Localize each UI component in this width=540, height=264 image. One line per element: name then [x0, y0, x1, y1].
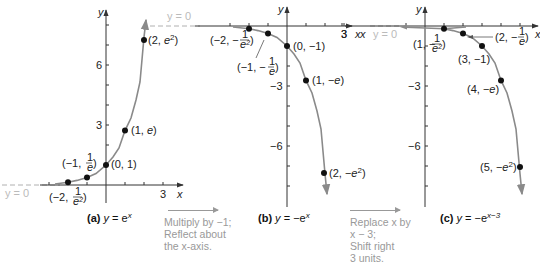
svg-text:): ) — [442, 38, 446, 50]
transform-note-1: Multiply by −1; Reflect about the x-axis… — [164, 216, 231, 252]
asymptote-label: y = 0 — [167, 10, 191, 22]
svg-text:(−2, −: (−2, − — [210, 34, 239, 46]
y-tick-neg6: −6 — [270, 140, 283, 152]
label-c-p5: (5, −e2) — [480, 160, 517, 173]
label-b-p1: (1, −e) — [312, 74, 344, 86]
label-a-pm2: (−2, 1 e² ) — [49, 185, 87, 207]
label-c-p2: (2, − 1 e ) — [467, 25, 529, 47]
transform-note-2: Replace x by x − 3; Shift right 3 units. — [350, 216, 411, 264]
x-tick-3: 3 — [160, 188, 166, 200]
point-c-3 — [479, 43, 485, 49]
point-a-2 — [141, 37, 147, 43]
caption-b: (b) y = −ex — [258, 211, 311, 224]
svg-text:): ) — [525, 31, 529, 43]
label-a-p0: (0, 1) — [111, 158, 137, 170]
point-c-5 — [517, 164, 523, 170]
svg-text:(−2,: (−2, — [49, 191, 68, 203]
point-a-0 — [103, 162, 109, 168]
label-b-pm2: (−2, − 1 e² ) — [210, 28, 254, 50]
svg-text:e²: e² — [73, 195, 83, 207]
point-a-m2 — [65, 179, 71, 185]
label-b-p2: (2, −e2) — [329, 166, 366, 179]
caption-a: (a) y = ex — [87, 211, 133, 224]
transform-arrow-1 — [168, 210, 218, 211]
label-b-p0: (0, −1) — [293, 40, 325, 52]
y-tick-neg6: −6 — [408, 140, 421, 152]
svg-text:e²: e² — [240, 38, 250, 50]
svg-text:): ) — [83, 191, 87, 203]
y-tick-3: 3 — [96, 119, 102, 131]
neg-exp-curve — [233, 27, 327, 194]
y-axis-label: y — [277, 3, 285, 15]
point-a-1 — [122, 128, 128, 134]
svg-text:(2, −: (2, − — [495, 31, 517, 43]
label-a-p1: (1, e) — [131, 124, 157, 136]
svg-text:(−1,: (−1, — [62, 157, 81, 169]
y-axis-label: y — [97, 6, 105, 18]
asymptote-label: y = 0 — [373, 28, 397, 40]
point-c-1 — [441, 26, 447, 32]
point-b-2 — [321, 170, 327, 176]
y-axis-label: y — [415, 3, 423, 15]
data-points — [441, 26, 523, 170]
label-c-p4: (4, −e) — [467, 83, 499, 95]
svg-text:): ) — [93, 157, 97, 169]
x-axis-label: x — [176, 188, 183, 200]
panel-a: y x 3 6 3 y = 0 (2, e2) (1, e) (0, 1) (−… — [2, 6, 183, 224]
svg-text:): ) — [250, 34, 254, 46]
label-a-p2: (2, e2) — [148, 33, 178, 46]
leader-line — [256, 40, 264, 58]
caption-c: (c) y = −ex−3 — [440, 211, 501, 224]
label-c-p1: (1, − 1 e² ) — [413, 32, 446, 54]
point-b-m1 — [265, 30, 271, 36]
label-c-p3: (3, −1) — [458, 53, 490, 65]
panel-c: y x 3 x −3 −6 y = 0 (1, − 1 e² ) (2, − 1… — [341, 3, 540, 224]
x-axis-label-b-end: x — [359, 28, 366, 40]
y-tick-neg3: −3 — [408, 80, 421, 92]
svg-text:e²: e² — [432, 42, 442, 54]
point-c-2 — [460, 30, 466, 36]
x-axis-label: x — [534, 28, 540, 40]
y-tick-neg3: −3 — [270, 80, 283, 92]
transform-arrow-2 — [350, 210, 400, 211]
curve-left-arrow — [400, 25, 407, 30]
asymptote-label: y = 0 — [5, 187, 29, 199]
y-tick-6: 6 — [96, 59, 102, 71]
svg-text:(−1, −: (−1, − — [237, 61, 266, 73]
point-a-m1 — [84, 175, 90, 181]
point-b-0 — [284, 43, 290, 49]
point-b-1 — [303, 77, 309, 83]
label-a-pm1: (−1, 1 e ) — [62, 151, 97, 173]
svg-text:): ) — [275, 61, 279, 73]
x-tick-3: 3 — [341, 28, 347, 40]
